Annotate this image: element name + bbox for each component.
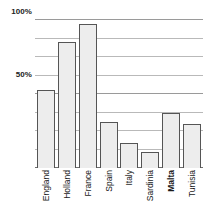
bar-slot [162,20,180,168]
bar-series [35,20,203,168]
bar-france[interactable] [79,24,97,168]
bar-malta[interactable] [162,113,180,168]
x-label-slot: England [37,170,55,213]
bar-spain[interactable] [100,122,118,168]
bar-slot [183,20,201,168]
y-axis-labels: 100% 50% [0,0,35,213]
x-label-slot: Italy [120,170,138,213]
bar-slot [120,20,138,168]
x-label-slot: Tunisia [183,170,201,213]
bar-slot [100,20,118,168]
x-axis-label-france: France [83,170,92,196]
bar-holland[interactable] [58,42,76,168]
bar-tunisia[interactable] [183,124,201,168]
bar-italy[interactable] [120,143,138,168]
x-axis-label-england: England [42,170,51,201]
x-axis-label-tunisia: Tunisia [188,170,197,197]
bar-chart: 100% 50% EnglandHollandFranceSpainItalyS… [0,0,209,213]
x-label-slot: Malta [162,170,180,213]
bar-slot [58,20,76,168]
x-label-slot: France [79,170,97,213]
x-axis-label-sardinia: Sardinia [146,170,155,201]
x-label-slot: Sardinia [141,170,159,213]
plot-area [35,20,203,168]
y-axis-tick-50: 50% [16,70,32,79]
x-axis-label-holland: Holland [63,170,72,199]
x-axis-label-malta: Malta [167,170,176,192]
x-axis-label-spain: Spain [104,170,113,192]
bar-sardinia[interactable] [141,152,159,168]
bar-slot [79,20,97,168]
y-axis-tick-100: 100% [11,7,32,16]
bar-slot [141,20,159,168]
x-label-slot: Holland [58,170,76,213]
bar-england[interactable] [37,90,55,168]
x-axis-label-italy: Italy [125,170,134,186]
bar-slot [37,20,55,168]
x-label-slot: Spain [100,170,118,213]
x-axis-labels: EnglandHollandFranceSpainItalySardiniaMa… [35,170,203,213]
